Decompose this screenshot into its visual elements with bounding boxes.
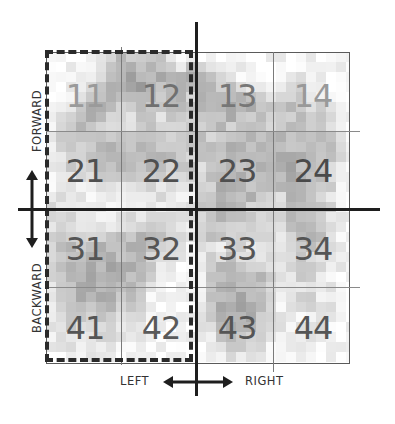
horizontal-center-axis (18, 208, 380, 211)
forward-backward-double-arrow-icon (26, 170, 38, 248)
cell-24: 24 (275, 151, 351, 191)
right-label: RIGHT (245, 374, 283, 388)
left-half-dashed-highlight (45, 50, 193, 362)
cell-43: 43 (199, 308, 275, 348)
cell-44: 44 (275, 308, 351, 348)
backward-label: BACKWARD (30, 261, 44, 335)
cell-34: 34 (275, 229, 351, 269)
cell-33: 33 (199, 229, 275, 269)
cell-14: 14 (275, 76, 351, 116)
cell-13: 13 (199, 76, 275, 116)
left-right-double-arrow-icon (163, 376, 233, 388)
left-label: LEFT (120, 374, 149, 388)
cell-23: 23 (199, 151, 275, 191)
forward-label: FORWARD (30, 90, 44, 152)
direction-grid-diagram: 11 12 13 14 21 22 23 24 31 32 33 34 41 4… (0, 0, 395, 424)
